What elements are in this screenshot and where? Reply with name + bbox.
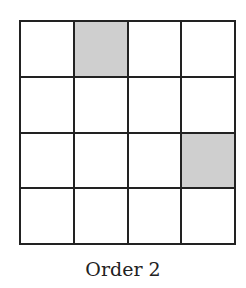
caption: Order 2: [0, 258, 246, 280]
grid: [19, 20, 236, 245]
shaded-cell: [74, 21, 128, 77]
grid-cell: [74, 77, 128, 133]
grid-cell: [128, 77, 182, 133]
grid-cell: [181, 188, 235, 244]
grid-cell: [20, 133, 74, 189]
shaded-cell: [181, 133, 235, 189]
grid-cell: [128, 188, 182, 244]
grid-cell: [74, 133, 128, 189]
grid-cell: [128, 21, 182, 77]
grid-cell: [20, 21, 74, 77]
grid-cell: [181, 21, 235, 77]
grid-cell: [20, 77, 74, 133]
grid-cell: [74, 188, 128, 244]
grid-cell: [181, 77, 235, 133]
grid-cell: [128, 133, 182, 189]
grid-cell: [20, 188, 74, 244]
